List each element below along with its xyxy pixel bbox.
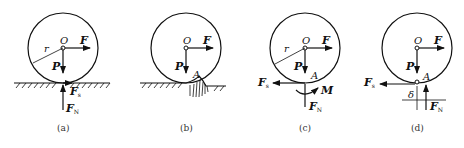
label-weight: P <box>293 60 303 73</box>
label-force: F <box>79 34 89 47</box>
ground-hatch <box>142 83 224 91</box>
label-normal: FN <box>429 100 443 113</box>
caption-c: (c) <box>299 123 311 133</box>
contact-point <box>415 80 419 84</box>
label-contact: A <box>310 70 318 81</box>
deformed-ground <box>186 76 226 86</box>
label-force: F <box>321 34 331 47</box>
moment-arrow <box>296 88 318 94</box>
label-center: O <box>414 35 422 46</box>
label-center: O <box>183 35 191 46</box>
caption-b: (b) <box>180 123 193 133</box>
label-weight: P <box>405 60 415 73</box>
center-point <box>184 46 188 50</box>
panel-b: O F P A (b) <box>140 13 226 133</box>
panel-d: O F P A Fs δ FN (d) <box>363 13 452 133</box>
label-force: F <box>433 34 443 47</box>
label-moment: M <box>320 84 334 97</box>
label-center: O <box>60 35 68 46</box>
caption-a: (a) <box>57 123 69 133</box>
caption-d: (d) <box>411 123 424 133</box>
rolling-resistance-diagram: O r F P Fs FN (a) O F P A (b) <box>0 0 464 148</box>
panel-a: O r F P Fs FN (a) <box>14 13 110 133</box>
label-friction: Fs <box>363 76 375 89</box>
label-offset-delta: δ <box>408 89 414 100</box>
label-friction: Fs <box>69 85 81 98</box>
panel-c: O r F P A Fs M FN (c) <box>257 13 340 133</box>
label-center: O <box>302 35 310 46</box>
label-force: F <box>202 34 212 47</box>
label-weight: P <box>174 60 184 73</box>
label-weight: P <box>51 60 61 73</box>
label-contact: A <box>422 71 430 82</box>
label-contact: A <box>192 69 200 80</box>
label-friction: Fs <box>257 76 269 89</box>
label-normal: FN <box>65 102 79 115</box>
label-radius: r <box>44 43 50 54</box>
label-radius: r <box>284 43 290 54</box>
label-normal: FN <box>308 100 322 113</box>
center-point <box>415 46 419 50</box>
